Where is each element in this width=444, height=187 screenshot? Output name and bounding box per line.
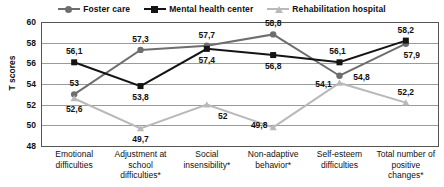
x-axis-category-labels: Emotional difficultiesAdjustment at scho…	[41, 149, 439, 187]
series-line-foster-care	[74, 34, 406, 94]
data-point-label: 57,9	[404, 50, 421, 60]
data-point-label: 56,8	[265, 61, 282, 71]
y-tick-label: 54	[16, 79, 36, 89]
y-tick-label: 52	[16, 100, 36, 110]
data-point-label: 53	[69, 78, 78, 88]
gridline	[41, 146, 439, 147]
data-point-marker	[138, 83, 144, 89]
data-point-marker	[204, 46, 210, 52]
data-point-label: 58,2	[398, 25, 415, 35]
data-point-label: 53,8	[132, 92, 149, 102]
x-axis-label: Social insensibility*	[175, 149, 239, 170]
data-point-label: 57,7	[199, 30, 216, 40]
data-point-label: 56,1	[329, 46, 346, 56]
data-point-marker	[337, 59, 343, 65]
data-point-label: 52	[218, 111, 227, 121]
x-axis-label: Adjustment at school difficulties*	[108, 149, 172, 181]
data-point-marker	[270, 31, 276, 37]
x-axis-label: Self-esteem difficulties	[307, 149, 371, 170]
data-point-label: 54,1	[315, 79, 332, 89]
data-point-marker	[71, 59, 77, 65]
series-layer	[41, 22, 439, 146]
data-point-marker	[403, 38, 409, 44]
data-point-label: 56,1	[66, 46, 83, 56]
plot-area: 5357,357,758,854,857,956,153,857,456,856…	[41, 22, 439, 146]
data-point-label: 52,6	[66, 104, 83, 114]
data-point-label: 54,8	[353, 72, 370, 82]
y-tick-label: 60	[16, 17, 36, 27]
data-point-label: 49,8	[251, 120, 268, 130]
plot-wrapper: T scores 60585654525048 5357,357,758,854…	[0, 0, 444, 187]
data-point-marker	[137, 47, 143, 53]
data-point-label: 52,2	[398, 87, 415, 97]
data-point-marker	[270, 52, 276, 58]
y-tick-label: 50	[16, 120, 36, 130]
data-point-label: 57,3	[132, 34, 149, 44]
y-tick-label: 56	[16, 58, 36, 68]
data-point-label: 58,8	[265, 18, 282, 28]
y-axis-title: T scores	[7, 43, 17, 103]
line-chart: Foster careMental health centerRehabilit…	[0, 0, 444, 187]
y-tick-label: 48	[16, 141, 36, 151]
y-tick-label: 58	[16, 38, 36, 48]
series-line-rehabilitation-hospital	[74, 83, 406, 128]
x-axis-label: Emotional difficulties	[42, 149, 106, 170]
data-point-label: 49,7	[132, 134, 149, 144]
x-axis-label: Total number of positive changes*	[374, 149, 438, 181]
data-point-label: 57,4	[199, 55, 216, 65]
data-point-marker	[203, 101, 210, 107]
x-axis-label: Non-adaptive behavior*	[241, 149, 305, 170]
data-point-marker	[336, 73, 342, 79]
data-point-marker	[336, 80, 343, 86]
